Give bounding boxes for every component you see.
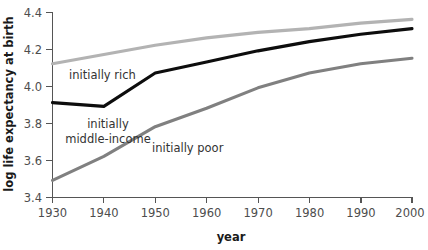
x-tick-label-1970: 1970 bbox=[243, 206, 272, 220]
series-annotation-initially-middle-income-line1: initially bbox=[87, 117, 129, 131]
y-tick-marks bbox=[46, 13, 52, 198]
line-chart: 4.4 4.2 4.0 3.8 3.6 3.4 1930 1940 1950 1… bbox=[0, 0, 428, 250]
series-annotation-initially-middle-income-line2: middle-income bbox=[65, 132, 151, 146]
y-tick-label-3-4: 3.4 bbox=[24, 191, 42, 205]
x-axis-title: year bbox=[217, 230, 246, 244]
x-tick-label-1960: 1960 bbox=[192, 206, 221, 220]
x-tick-label-2000: 2000 bbox=[395, 206, 424, 220]
y-axis-title: log life expectancy at birth bbox=[2, 16, 16, 191]
y-tick-label-4-0: 4.0 bbox=[24, 80, 42, 94]
x-tick-label-1940: 1940 bbox=[89, 206, 118, 220]
y-tick-label-4-4: 4.4 bbox=[24, 6, 42, 20]
chart-canvas: 4.4 4.2 4.0 3.8 3.6 3.4 1930 1940 1950 1… bbox=[0, 0, 428, 250]
x-tick-label-1950: 1950 bbox=[141, 206, 170, 220]
y-tick-label-4-2: 4.2 bbox=[24, 43, 42, 57]
series-annotation-initially-poor: initially poor bbox=[152, 141, 224, 155]
x-tick-label-1990: 1990 bbox=[346, 206, 375, 220]
series-annotation-initially-rich: initially rich bbox=[69, 68, 136, 82]
x-tick-label-1980: 1980 bbox=[295, 206, 324, 220]
x-tick-label-1930: 1930 bbox=[38, 206, 67, 220]
y-tick-label-3-6: 3.6 bbox=[24, 154, 42, 168]
y-tick-label-3-8: 3.8 bbox=[24, 117, 42, 131]
